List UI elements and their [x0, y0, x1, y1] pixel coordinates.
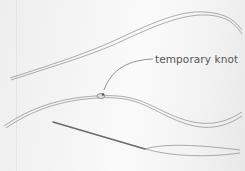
threads-drawing	[0, 0, 245, 171]
middle-thread	[4, 96, 242, 128]
annotation-label: temporary knot	[155, 53, 238, 65]
leader-line	[104, 59, 153, 90]
illustration: temporary knot	[0, 0, 245, 171]
top-thread	[10, 12, 242, 80]
